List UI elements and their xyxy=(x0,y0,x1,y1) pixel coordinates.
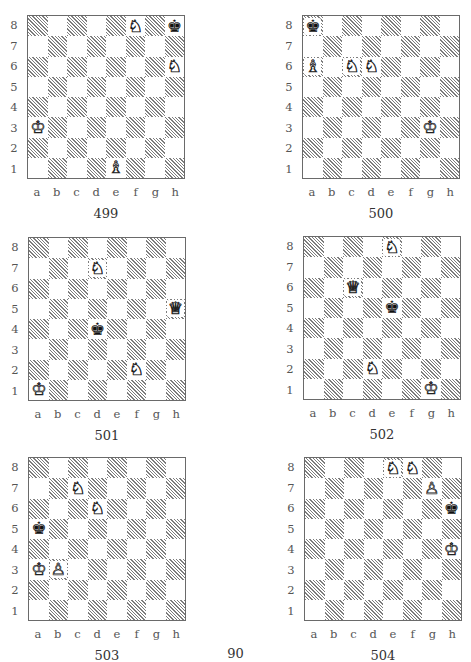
square-d4 xyxy=(362,97,382,117)
black-king-icon: ♚ xyxy=(444,500,459,517)
square-d8 xyxy=(364,458,384,478)
square-a3 xyxy=(304,338,324,358)
white-knight-icon: ♘ xyxy=(70,480,85,497)
rank-label: 5 xyxy=(283,298,297,319)
square-g1 xyxy=(420,158,440,178)
chess-diagram-503: 87654321♘♘♚♔♙abcdefgh503 xyxy=(28,457,228,662)
square-d1 xyxy=(363,379,383,399)
square-g4 xyxy=(422,539,442,559)
rank-label: 7 xyxy=(284,478,298,499)
square-e4 xyxy=(382,318,402,338)
file-label: c xyxy=(67,185,87,199)
square-a1 xyxy=(29,600,49,620)
square-e5 xyxy=(106,77,126,97)
file-labels: abcdefgh xyxy=(302,185,460,199)
square-c4 xyxy=(68,319,88,339)
file-labels: abcdefgh xyxy=(28,627,186,641)
square-b3 xyxy=(48,117,68,137)
square-h7 xyxy=(441,257,461,277)
rank-label: 4 xyxy=(7,97,21,118)
square-f8 xyxy=(402,237,422,257)
square-f4 xyxy=(127,319,147,339)
square-e2 xyxy=(382,359,402,379)
square-f1 xyxy=(127,600,147,620)
square-g7 xyxy=(146,258,166,278)
square-h7 xyxy=(166,258,186,278)
file-label: h xyxy=(165,185,185,199)
square-a3: ♔ xyxy=(28,117,48,137)
square-f3 xyxy=(402,338,422,358)
chess-board: ♚♗♘♘♔ xyxy=(302,15,460,179)
white-queen-icon: ♕ xyxy=(344,279,361,296)
square-h6 xyxy=(166,499,186,519)
chess-diagram-501: 87654321♘♕♚♘♔abcdefgh501 xyxy=(28,237,228,462)
square-c3 xyxy=(67,117,87,137)
square-f3 xyxy=(403,559,423,579)
square-b1 xyxy=(325,600,345,620)
rank-label: 1 xyxy=(7,159,21,180)
square-b6 xyxy=(325,499,345,519)
square-f6 xyxy=(127,279,147,299)
square-c1 xyxy=(68,600,88,620)
square-e2 xyxy=(383,580,403,600)
square-e2 xyxy=(106,138,126,158)
square-h2 xyxy=(166,360,186,380)
square-e8 xyxy=(381,16,401,36)
white-knight-icon: ♘ xyxy=(89,260,106,277)
rank-label: 2 xyxy=(8,580,22,601)
square-c3 xyxy=(68,339,88,359)
square-e1 xyxy=(107,600,127,620)
square-b3 xyxy=(49,339,69,359)
square-b4 xyxy=(49,319,69,339)
square-b4 xyxy=(48,97,68,117)
square-g1 xyxy=(422,600,442,620)
square-h3 xyxy=(441,338,461,358)
square-d6 xyxy=(87,57,107,77)
square-c5 xyxy=(343,298,363,318)
rank-label: 3 xyxy=(7,118,21,139)
square-f6 xyxy=(403,499,423,519)
square-f4 xyxy=(402,318,422,338)
square-g6 xyxy=(421,278,441,298)
file-label: h xyxy=(440,185,460,199)
square-g6 xyxy=(145,57,165,77)
square-d4 xyxy=(363,318,383,338)
square-b7 xyxy=(49,478,69,498)
square-a4 xyxy=(304,318,324,338)
square-d4 xyxy=(88,539,108,559)
square-g4 xyxy=(145,97,165,117)
file-label: b xyxy=(322,185,342,199)
file-label: g xyxy=(146,185,166,199)
white-knight-icon: ♘ xyxy=(343,58,360,75)
square-d1 xyxy=(364,600,384,620)
square-h3 xyxy=(166,339,186,359)
file-label: d xyxy=(86,185,106,199)
square-d7 xyxy=(88,478,108,498)
square-c4 xyxy=(68,539,88,559)
square-d6 xyxy=(364,499,384,519)
square-d6 xyxy=(88,279,108,299)
square-c8 xyxy=(67,16,87,36)
file-label: b xyxy=(48,407,68,421)
square-b6 xyxy=(324,278,344,298)
square-c7 xyxy=(67,36,87,56)
square-f8: ♘ xyxy=(126,16,146,36)
square-d5 xyxy=(88,299,108,319)
square-h8: ♚ xyxy=(165,16,185,36)
rank-label: 7 xyxy=(7,36,21,57)
square-d4: ♚ xyxy=(88,319,108,339)
square-h7 xyxy=(440,36,460,56)
square-f2 xyxy=(402,359,422,379)
square-a1 xyxy=(28,158,48,178)
square-a2 xyxy=(29,360,49,380)
square-a4 xyxy=(303,97,323,117)
square-d5 xyxy=(88,519,108,539)
square-a8 xyxy=(28,16,48,36)
square-b3: ♙ xyxy=(49,559,69,579)
file-label: a xyxy=(302,185,322,199)
square-c7 xyxy=(342,36,362,56)
square-a8 xyxy=(29,458,49,478)
white-king-icon: ♔ xyxy=(423,380,438,397)
square-f8 xyxy=(401,16,421,36)
square-f2 xyxy=(401,138,421,158)
